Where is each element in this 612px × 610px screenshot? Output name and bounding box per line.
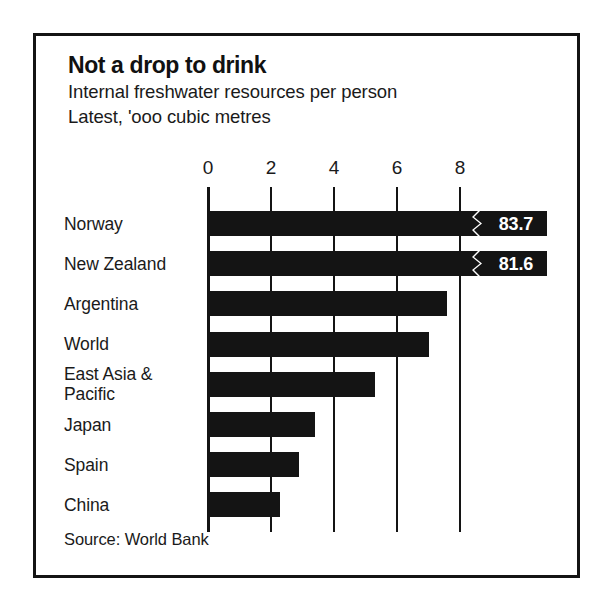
axis-break-icon [469, 251, 485, 276]
gridline [396, 187, 398, 532]
category-label-line: China [64, 495, 214, 515]
category-label-line: Argentina [64, 294, 214, 314]
bar [208, 211, 469, 236]
gridline [459, 187, 461, 532]
category-label: World [64, 334, 214, 354]
x-axis-tick-label: 8 [445, 157, 475, 179]
category-label-line: Pacific [64, 384, 214, 404]
category-label: Japan [64, 415, 214, 435]
plot-area: 02468 83.781.6 NorwayNew ZealandArgentin… [36, 36, 577, 575]
category-label: East Asia &Pacific [64, 364, 214, 404]
category-label: New Zealand [64, 254, 214, 274]
x-axis-tick-label: 6 [382, 157, 412, 179]
category-label-line: New Zealand [64, 254, 214, 274]
bar [208, 372, 375, 397]
gridline [270, 187, 272, 532]
bar [208, 291, 447, 316]
bar-value-label: 81.6 [485, 251, 547, 276]
bar [208, 412, 315, 437]
bar [208, 332, 429, 357]
source-note: Source: World Bank [64, 530, 209, 549]
x-axis-tick-label: 4 [319, 157, 349, 179]
category-label: China [64, 495, 214, 515]
category-label-line: Norway [64, 214, 214, 234]
bar-value-label: 83.7 [485, 211, 547, 236]
category-label-line: East Asia & [64, 364, 214, 384]
category-labels: NorwayNew ZealandArgentinaWorldEast Asia… [64, 36, 214, 575]
category-label-line: Spain [64, 455, 214, 475]
bar [208, 492, 280, 517]
category-label: Argentina [64, 294, 214, 314]
bar [208, 452, 299, 477]
axis-break-icon [469, 211, 485, 236]
gridline [333, 187, 335, 532]
chart-frame: Not a drop to drink Internal freshwater … [33, 33, 580, 578]
bar [208, 251, 469, 276]
category-label-line: Japan [64, 415, 214, 435]
category-label: Spain [64, 455, 214, 475]
x-axis-tick-label: 2 [256, 157, 286, 179]
category-label-line: World [64, 334, 214, 354]
category-label: Norway [64, 214, 214, 234]
